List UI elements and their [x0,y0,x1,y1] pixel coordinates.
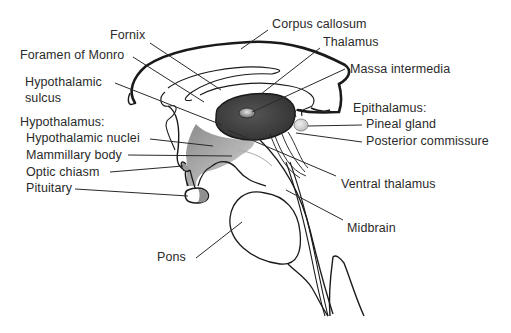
pons [230,192,301,264]
thalamus-leader [261,48,320,94]
label-fornix: Fornix [110,28,145,42]
label-thalamus: Thalamus [323,35,379,49]
optic-chiasm-leader [110,166,183,172]
label-ventral-thalamus: Ventral thalamus [341,177,436,191]
label-hypothalamic-sulcus-line2: sulcus [25,91,61,105]
label-foramen-of-monro: Foramen of Monro [20,48,124,62]
pons-leader [196,222,242,258]
label-pituitary: Pituitary [26,181,72,195]
pineal-gland-leader [308,125,362,126]
label-pineal-gland: Pineal gland [366,117,436,131]
label-hypothalamic-sulcus-line1: Hypothalamic [25,75,102,89]
thalamus [216,94,295,141]
label-midbrain: Midbrain [347,221,396,235]
cerebellum-sliver [329,256,364,316]
label-mammillary-body: Mammillary body [26,148,122,162]
label-posterior-commissure: Posterior commissure [366,134,489,148]
posterior-commissure-leader [296,133,362,142]
pituitary-leader [75,189,188,196]
label-massa-intermedia: Massa intermedia [350,62,450,76]
label-hypothalamic-nuclei: Hypothalamic nuclei [26,131,140,145]
pineal-gland [294,119,308,131]
corpus-callosum-leader [241,30,268,49]
label-hypothalamus-heading: Hypothalamus: [20,115,105,129]
label-corpus-callosum: Corpus callosum [272,17,367,31]
foramen-monro-leader [133,57,204,102]
massa-intermedia [239,108,255,118]
label-epithalamus-heading: Epithalamus: [353,101,426,115]
label-optic-chiasm: Optic chiasm [26,165,99,179]
label-pons: Pons [157,250,186,264]
